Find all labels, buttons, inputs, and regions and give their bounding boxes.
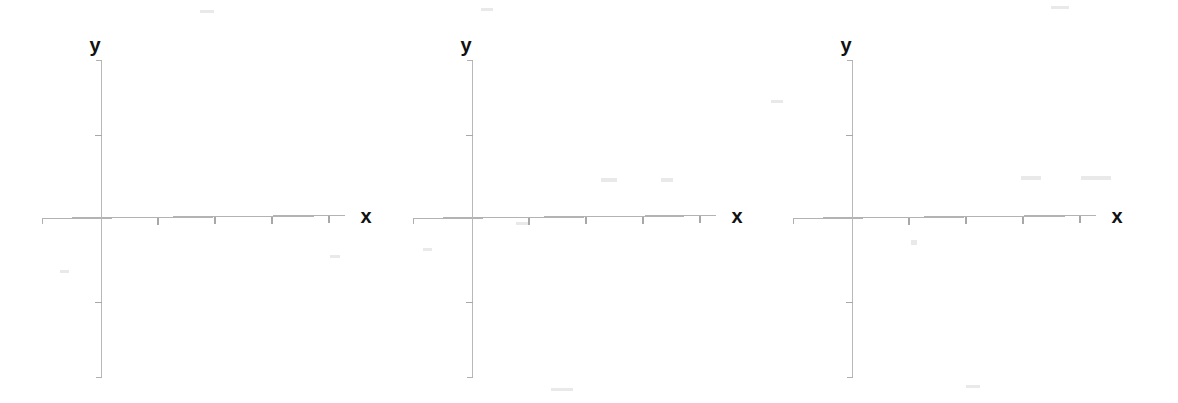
scan-speck xyxy=(601,178,617,182)
x-axis-line xyxy=(413,216,716,219)
x-axis-label: x xyxy=(1111,205,1122,227)
scan-speck xyxy=(661,178,673,182)
scan-speck xyxy=(551,388,573,391)
scan-speck xyxy=(911,240,917,245)
scan-speck xyxy=(771,100,783,103)
scan-speck xyxy=(516,222,530,225)
axes-panel-3: y x xyxy=(751,0,1143,403)
scan-speck xyxy=(423,248,432,251)
y-axis-label: y xyxy=(460,34,472,56)
x-axis-label: x xyxy=(731,205,742,227)
axes-panel-1: y x xyxy=(0,0,392,403)
scan-speck xyxy=(60,270,69,273)
x-axis-label: x xyxy=(360,205,371,227)
scan-speck xyxy=(200,10,214,13)
scan-speck xyxy=(1021,176,1041,180)
x-axis-line xyxy=(793,216,1096,219)
scan-speck xyxy=(481,8,493,11)
y-axis-label: y xyxy=(89,34,101,56)
x-axis-line xyxy=(42,216,345,219)
scan-speck xyxy=(1051,6,1069,9)
scan-speck xyxy=(330,255,340,258)
axes-panel-2: y x xyxy=(371,0,763,403)
y-axis-label: y xyxy=(840,34,852,56)
axes-worksheet: y x y x xyxy=(0,0,1178,403)
scan-speck xyxy=(966,385,980,388)
scan-speck xyxy=(1081,176,1111,180)
